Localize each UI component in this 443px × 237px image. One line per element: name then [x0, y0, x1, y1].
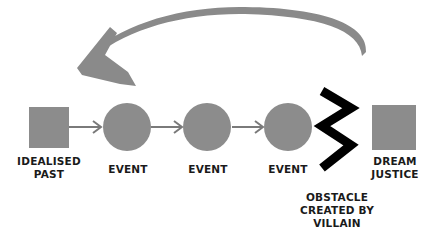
dream-justice-square: [372, 105, 416, 150]
event-1-circle: [103, 103, 151, 151]
label-line: EVENT: [108, 163, 147, 176]
connector-arrows: [69, 121, 263, 133]
idealised-past-square: [29, 107, 69, 148]
label-line: EVENT: [268, 163, 307, 176]
label-event-3: EVENT: [268, 163, 307, 176]
label-event-1: EVENT: [108, 163, 147, 176]
label-dream-justice: DREAM JUSTICE: [371, 155, 418, 181]
label-line: EVENT: [188, 163, 227, 176]
label-line: PAST: [17, 168, 81, 181]
label-idealised-past: IDEALISED PAST: [17, 155, 81, 181]
label-line: VILLAIN: [300, 217, 374, 230]
label-line: OBSTACLE: [300, 191, 374, 204]
return-arrow: [77, 7, 366, 86]
label-event-2: EVENT: [188, 163, 227, 176]
label-line: CREATED BY: [300, 204, 374, 217]
label-obstacle: OBSTACLE CREATED BY VILLAIN: [300, 191, 374, 230]
obstacle-zigzag-icon: [322, 91, 351, 168]
label-line: DREAM: [371, 155, 418, 168]
event-3-circle: [264, 103, 312, 151]
diagram-canvas: [0, 0, 443, 237]
label-line: JUSTICE: [371, 168, 418, 181]
label-line: IDEALISED: [17, 155, 81, 168]
event-2-circle: [183, 103, 231, 151]
